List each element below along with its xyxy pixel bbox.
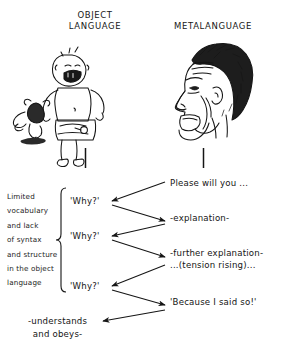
child-turn-2: 'Why?' bbox=[70, 231, 100, 241]
object-language-caption: Limited vocabulary and lack of syntax an… bbox=[7, 190, 65, 291]
adult-turn-4: 'Because I said so!' bbox=[170, 297, 257, 309]
arrow-reply2-to-why2 bbox=[112, 224, 165, 236]
adult-face-profile-icon bbox=[175, 43, 252, 140]
adult-turn-3: -further explanation- ...(tension rising… bbox=[170, 248, 263, 271]
child-turn-1: 'Why?' bbox=[70, 196, 100, 206]
adult-turn-1: Please will you ... bbox=[170, 178, 248, 190]
dialogue-arrows bbox=[103, 182, 165, 321]
arrow-reply4-to-conclusion bbox=[103, 310, 165, 321]
arrow-why3-to-reply4 bbox=[112, 290, 165, 305]
arrow-reply3-to-why3 bbox=[112, 265, 165, 286]
crying-toddler-with-teddy-bear-icon bbox=[13, 47, 104, 167]
child-turn-3: 'Why?' bbox=[70, 281, 100, 291]
adult-turn-2: -explanation- bbox=[170, 213, 229, 225]
arrow-why1-to-reply2 bbox=[112, 205, 165, 221]
diagram-canvas: OBJECT LANGUAGE METALANGUAGE bbox=[0, 0, 285, 355]
arrow-reply1-to-why1 bbox=[112, 182, 165, 201]
arrow-why2-to-reply3 bbox=[112, 240, 165, 257]
conclusion-label: -understands and obeys- bbox=[28, 315, 87, 340]
